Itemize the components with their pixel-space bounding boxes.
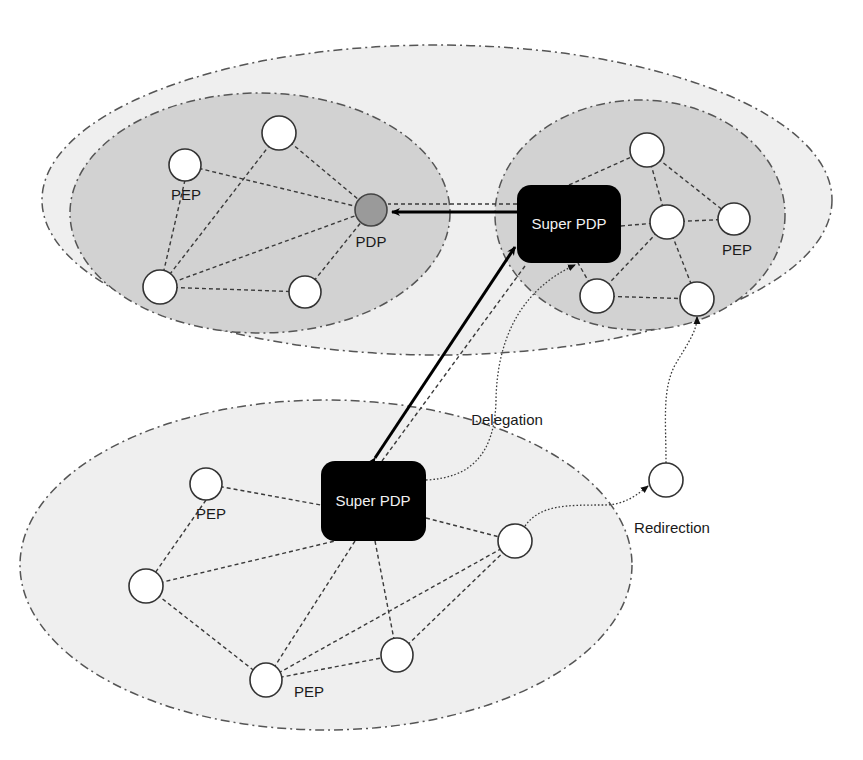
- pep-label: PEP: [722, 241, 752, 258]
- access-control-diagram: Super PDP Super PDP PEP PDP PEP PEP PEP …: [0, 0, 863, 760]
- super-pdp-top[interactable]: Super PDP: [517, 185, 621, 263]
- super-pdp-top-label: Super PDP: [531, 215, 606, 232]
- pdp-label: PDP: [356, 233, 387, 250]
- pep-node[interactable]: [718, 203, 750, 235]
- pep-node[interactable]: [169, 149, 201, 181]
- pep-node[interactable]: [680, 282, 714, 316]
- pep-node[interactable]: [289, 276, 321, 308]
- pep-label: PEP: [196, 505, 226, 522]
- super-pdp-bottom-label: Super PDP: [335, 492, 410, 509]
- pep-node[interactable]: [143, 270, 177, 304]
- pep-node[interactable]: [650, 205, 684, 239]
- pep-node[interactable]: [190, 468, 222, 500]
- zone-bottom: [20, 400, 632, 730]
- pdp-node[interactable]: [355, 194, 387, 226]
- super-pdp-bottom[interactable]: Super PDP: [321, 461, 426, 541]
- pep-node[interactable]: [129, 569, 163, 603]
- pep-node[interactable]: [580, 279, 614, 313]
- pep-node[interactable]: [630, 133, 664, 167]
- zones: [20, 45, 832, 730]
- delegation-label: Delegation: [471, 411, 543, 428]
- pep-node[interactable]: [498, 524, 532, 558]
- pep-label: PEP: [171, 186, 201, 203]
- redirection-label: Redirection: [634, 519, 710, 536]
- pep-node[interactable]: [381, 638, 413, 672]
- pep-node[interactable]: [250, 663, 282, 697]
- redirect-target-node[interactable]: [649, 463, 683, 497]
- pep-label: PEP: [294, 683, 324, 700]
- pep-node[interactable]: [262, 116, 296, 150]
- redirection-path-2: [665, 317, 697, 463]
